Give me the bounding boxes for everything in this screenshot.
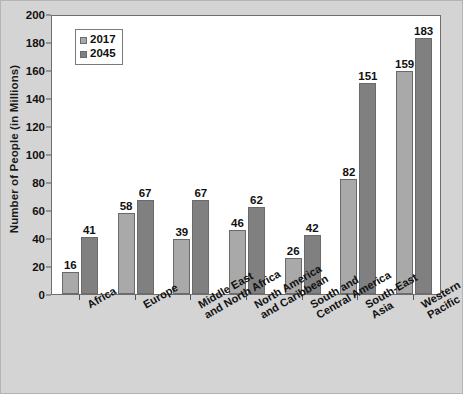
x-axis-tick-label-line: and Caribbean: [258, 310, 264, 320]
y-axis-tick-label: 40: [32, 233, 45, 245]
x-axis-tick-label-line: Africa: [85, 300, 91, 310]
bar-value-label: 67: [194, 187, 207, 199]
bar-2017-africa[interactable]: 16: [62, 272, 79, 294]
bar-chart-figure: Number of People (in Millions) 020406080…: [0, 0, 463, 394]
bar-value-label: 159: [395, 58, 414, 70]
y-axis-tick-label: 120: [26, 121, 45, 133]
x-axis-tick-label: Middle Eastand North Africa: [196, 300, 208, 321]
x-axis-tick-label: WesternPacific: [419, 300, 431, 321]
y-axis-title-text: Number of People (in Millions): [8, 64, 20, 232]
bar-value-label: 82: [343, 166, 356, 178]
legend-swatch-icon: [80, 51, 87, 58]
y-axis-tick-label: 100: [26, 149, 45, 161]
x-axis-tick-label: South andCentral America: [308, 300, 320, 321]
x-axis-tick-label-line: Europe: [141, 300, 147, 310]
legend-item-label: 2045: [90, 48, 116, 60]
bar-value-label: 16: [64, 259, 77, 271]
x-axis-tick-label: South-EastAsia: [363, 300, 375, 321]
bar-2045-western-pacific[interactable]: 183: [415, 38, 432, 294]
x-axis-tick-label-line: North America: [252, 300, 258, 310]
bar-value-label: 46: [231, 217, 244, 229]
x-axis-tick-label-line: and North Africa: [202, 310, 208, 320]
y-axis-tick-label: 140: [26, 93, 45, 105]
legend-item-label: 2017: [90, 34, 116, 46]
y-axis-tick-label: 20: [32, 261, 45, 273]
y-axis-tick-label: 180: [26, 37, 45, 49]
y-axis-tick-label: 200: [26, 9, 45, 21]
legend-item-2045[interactable]: 2045: [80, 47, 116, 61]
plot-area: 1641586739674662264282151159183 20172045: [51, 15, 441, 295]
x-axis-tick-label-line: Middle East: [196, 300, 202, 310]
bar-group: 82151: [340, 16, 376, 294]
bar-value-label: 62: [250, 194, 263, 206]
x-axis-tick-label: Africa: [85, 300, 91, 310]
x-axis-tick-label-line: South-East: [363, 300, 369, 310]
x-axis-tick-label: Europe: [141, 300, 147, 310]
bar-2017-europe[interactable]: 58: [118, 213, 135, 294]
bar-2045-africa[interactable]: 41: [81, 237, 98, 294]
bar-group: 159183: [396, 16, 432, 294]
bar-2045-south-east-asia[interactable]: 151: [359, 83, 376, 294]
y-axis-tick-label: 60: [32, 205, 45, 217]
bar-group: 3967: [173, 16, 209, 294]
x-axis-tick-label-line: Western: [419, 300, 425, 310]
bar-value-label: 67: [139, 187, 152, 199]
x-axis-tick-label-line: Pacific: [425, 310, 431, 320]
y-axis-tick-label: 0: [39, 289, 45, 301]
legend-swatch-icon: [80, 37, 87, 44]
bar-2045-europe[interactable]: 67: [137, 200, 154, 294]
x-axis-tick-label-line: Central America: [314, 310, 320, 320]
x-axis-tick-labels: AfricaEuropeMiddle Eastand North AfricaN…: [51, 300, 441, 390]
bar-value-label: 39: [175, 226, 188, 238]
x-axis-tick-label-line: South and: [308, 300, 314, 310]
bar-value-label: 151: [358, 70, 377, 82]
bar-value-label: 42: [306, 222, 319, 234]
chart-legend: 20172045: [75, 29, 123, 65]
bar-2017-western-pacific[interactable]: 159: [396, 71, 413, 294]
bar-group: 2642: [285, 16, 321, 294]
y-axis-tick-label: 80: [32, 177, 45, 189]
y-axis-tick-label: 160: [26, 65, 45, 77]
bar-value-label: 41: [83, 224, 96, 236]
bar-2045-middle-east-and-north-africa[interactable]: 67: [192, 200, 209, 294]
bar-value-label: 58: [120, 200, 133, 212]
bar-value-label: 26: [287, 245, 300, 257]
y-axis-tick-labels: 020406080100120140160180200: [23, 15, 51, 295]
bar-value-label: 183: [414, 25, 433, 37]
x-axis-tick-label-line: Asia: [369, 310, 375, 320]
x-axis-tick-label: North Americaand Caribbean: [252, 300, 264, 321]
legend-item-2017[interactable]: 2017: [80, 33, 116, 47]
bar-group: 5867: [118, 16, 154, 294]
y-axis-title: Number of People (in Millions): [3, 1, 25, 296]
bar-group: 4662: [229, 16, 265, 294]
